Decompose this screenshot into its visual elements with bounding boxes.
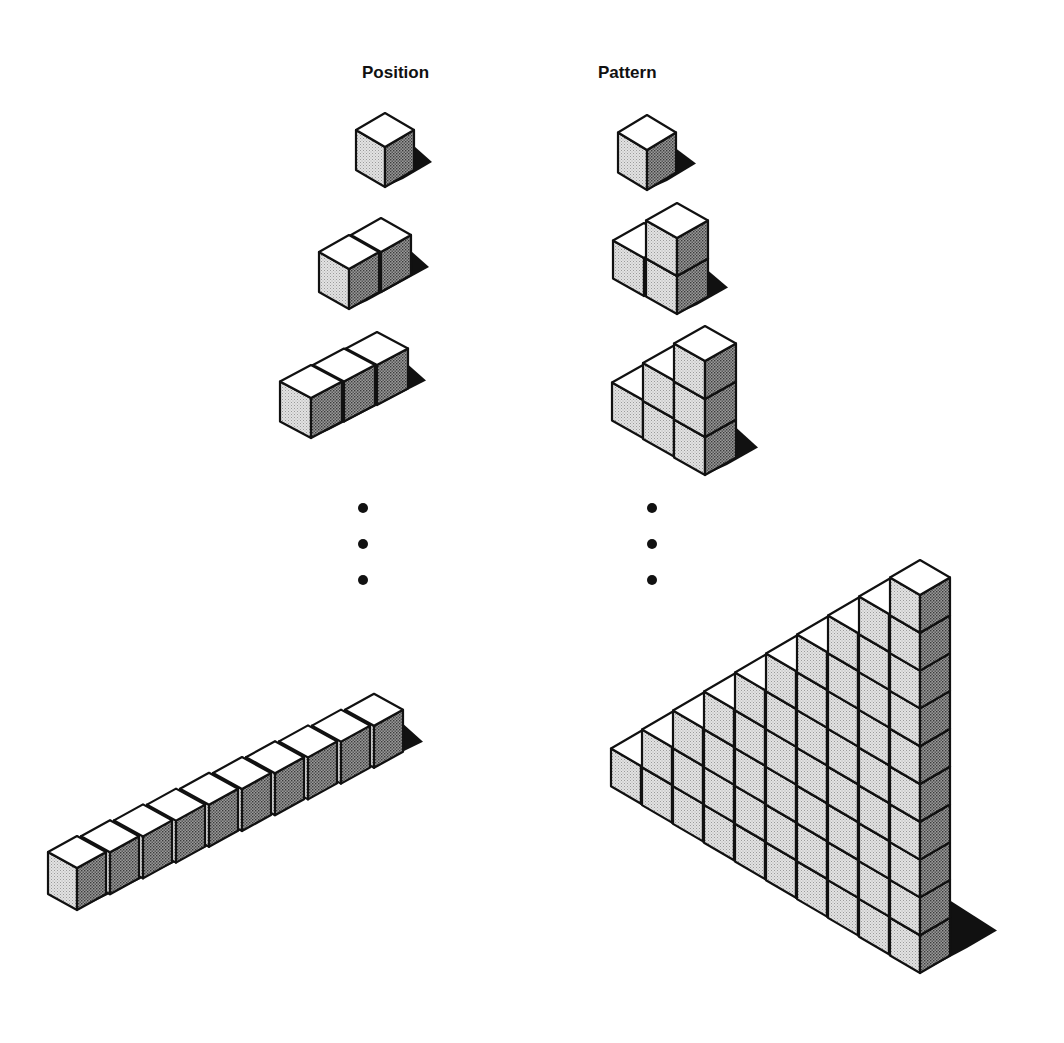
- position-figure-10: [48, 694, 423, 910]
- position-ellipsis-dot: [358, 503, 368, 513]
- position-ellipsis-dot: [358, 539, 368, 549]
- position-ellipsis-dot: [358, 575, 368, 585]
- position-figure-1: [356, 113, 432, 187]
- cube: [280, 365, 342, 438]
- cube-diagram: [0, 0, 1064, 1043]
- pattern-figure-2: [613, 203, 728, 314]
- pattern-ellipsis-dot: [647, 503, 657, 513]
- cube: [618, 115, 676, 190]
- position-figure-2: [319, 218, 429, 309]
- pattern-ellipsis-dot: [647, 575, 657, 585]
- cube: [48, 836, 106, 910]
- pattern-figure-10: [611, 560, 997, 973]
- pattern-ellipsis-dot: [647, 539, 657, 549]
- pattern-figure-3: [612, 326, 758, 475]
- cube: [356, 113, 414, 187]
- figures-layer: [48, 113, 997, 973]
- cube: [319, 235, 379, 309]
- pattern-figure-1: [618, 115, 696, 190]
- position-figure-3: [280, 332, 426, 438]
- ellipsis-dots: [358, 503, 657, 585]
